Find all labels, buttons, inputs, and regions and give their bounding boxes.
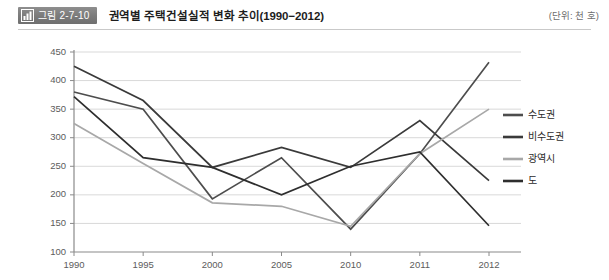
chart-series-group (74, 62, 489, 229)
line-chart: 100150200250300350400450 199019952000200… (0, 30, 609, 280)
x-tick-label: 2011 (410, 259, 430, 270)
legend-label-도: 도 (528, 175, 537, 186)
y-tick-label: 100 (50, 246, 66, 257)
figure-number-badge: 그림 2-7-10 (18, 7, 97, 24)
chart-gridlines (74, 52, 521, 223)
x-tick-label: 1995 (133, 259, 154, 270)
legend-label-광역시: 광역시 (528, 153, 555, 164)
figure-unit-label: (단위: 천 호) (549, 8, 599, 22)
series-line-수도권 (74, 62, 489, 229)
legend-label-수도권: 수도권 (528, 109, 555, 120)
y-tick-label: 200 (50, 188, 66, 199)
y-tick-label: 300 (50, 131, 66, 142)
y-tick-label: 350 (50, 103, 66, 114)
chart-legend: 수도권비수도권광역시도 (503, 109, 564, 186)
series-line-비수도권 (74, 66, 489, 180)
figure-title: 권역별 주택건설실적 변화 추이(1990−2012) (109, 7, 324, 23)
y-tick-label: 400 (50, 74, 66, 85)
x-tick-label: 2000 (202, 259, 223, 270)
x-tick-label: 2010 (340, 259, 361, 270)
x-tick-label: 1990 (63, 259, 84, 270)
chart-container: 100150200250300350400450 199019952000200… (0, 30, 609, 280)
x-tick-label: 2005 (271, 259, 292, 270)
legend-label-비수도권: 비수도권 (528, 131, 564, 142)
x-tick-label: 2012 (478, 259, 499, 270)
y-tick-label: 450 (50, 46, 66, 57)
y-tick-label: 250 (50, 160, 66, 171)
x-axis-ticks: 1990199520002005201020112012 (63, 252, 499, 270)
figure-header: 그림 2-7-10 권역별 주택건설실적 변화 추이(1990−2012) (단… (0, 0, 609, 30)
y-tick-label: 150 (50, 217, 66, 228)
figure-number-label: 그림 2-7-10 (38, 7, 90, 24)
figure-page: 그림 2-7-10 권역별 주택건설실적 변화 추이(1990−2012) (단… (0, 0, 609, 280)
y-axis-ticks: 100150200250300350400450 (50, 46, 74, 257)
bar-chart-icon (21, 9, 34, 22)
